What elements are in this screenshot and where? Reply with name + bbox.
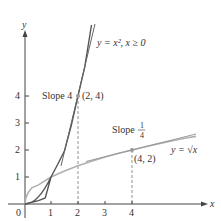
origin-label: 0 (16, 207, 21, 218)
x-axis-label: x (209, 198, 215, 209)
slope-quarter-label: Slope (112, 124, 135, 135)
y-axis-arrow-icon (23, 30, 28, 37)
x-tick-label-2: 2 (75, 207, 80, 218)
y-ticks (25, 96, 29, 177)
point-2-4-label: (2, 4) (82, 90, 104, 102)
parabola-curve (25, 25, 92, 204)
point-4-2-label: (4, 2) (134, 153, 156, 165)
slope-quarter-denominator: 4 (140, 131, 144, 140)
x-axis-arrow-icon (201, 202, 208, 207)
y-tick-label-3: 3 (15, 117, 20, 128)
x-tick-label-1: 1 (48, 207, 53, 218)
x-tick-label-3: 3 (102, 207, 107, 218)
sqrt-label: y = √x (170, 144, 198, 155)
graph-canvas: 0 1 2 3 4 1 2 3 4 x y Slope 4 (2, 4) Slo… (0, 0, 221, 221)
parabola-label: y = x², x ≥ 0 (96, 37, 146, 48)
y-tick-label-1: 1 (15, 171, 20, 182)
y-axis-label: y (21, 19, 27, 30)
point-4-2 (130, 148, 134, 152)
x-tick-label-4: 4 (129, 207, 134, 218)
slope-4-label: Slope 4 (42, 90, 72, 101)
y-tick-label-2: 2 (15, 144, 20, 155)
y-tick-label-4: 4 (15, 90, 20, 101)
point-2-4 (76, 94, 80, 98)
slope-quarter-numerator: 1 (140, 121, 144, 130)
